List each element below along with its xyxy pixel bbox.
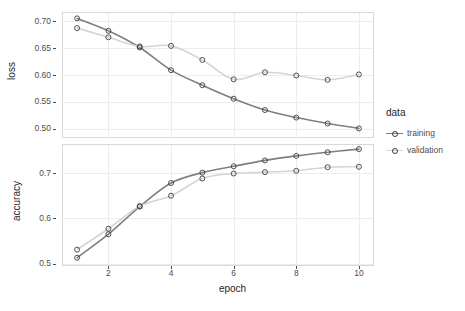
y-axis-title-accuracy: accuracy — [12, 171, 22, 231]
panel-loss — [62, 12, 374, 138]
legend-item-training[interactable]: training — [386, 125, 465, 142]
x-tick-label: 10 — [347, 269, 371, 278]
y-tick-mark — [53, 173, 56, 174]
legend-item-validation[interactable]: validation — [386, 142, 465, 159]
legend-items: trainingvalidation — [386, 125, 465, 159]
y-tick-mark — [53, 102, 56, 103]
x-tick-label: 4 — [159, 269, 183, 278]
x-tick-mark — [234, 266, 235, 269]
y-tick-label: 0.7 — [39, 169, 51, 178]
chart-root: 0.500.550.600.650.70 loss 0.50.60.7 accu… — [0, 0, 465, 311]
series-layer — [63, 145, 373, 265]
x-tick-label: 6 — [222, 269, 246, 278]
legend: data trainingvalidation — [386, 108, 465, 159]
panel-accuracy — [62, 144, 374, 266]
legend-key-icon — [386, 142, 403, 159]
y-tick-mark — [53, 48, 56, 49]
y-tick-label: 0.50 — [34, 124, 51, 133]
series-line-training — [77, 149, 359, 258]
legend-item-label: validation — [407, 146, 443, 155]
y-tick-mark — [53, 129, 56, 130]
x-tick-mark — [359, 266, 360, 269]
legend-item-label: training — [407, 129, 435, 138]
series-line-validation — [77, 167, 359, 250]
y-tick-label: 0.70 — [34, 17, 51, 26]
y-tick-mark — [53, 264, 56, 265]
x-tick-label: 2 — [96, 269, 120, 278]
y-tick-mark — [53, 75, 56, 76]
panel-loss-plot-area — [63, 13, 373, 137]
y-tick-label: 0.6 — [39, 214, 51, 223]
y-axis-ticks-loss: 0.500.550.600.650.70 — [22, 12, 56, 138]
y-tick-label: 0.55 — [34, 97, 51, 106]
x-tick-mark — [108, 266, 109, 269]
x-tick-mark — [171, 266, 172, 269]
y-tick-mark — [53, 218, 56, 219]
x-tick-label: 8 — [284, 269, 308, 278]
y-axis-title-loss: loss — [7, 41, 17, 101]
y-tick-label: 0.5 — [39, 259, 51, 268]
series-line-training — [77, 18, 359, 128]
panel-accuracy-plot-area — [63, 145, 373, 265]
y-tick-mark — [53, 21, 56, 22]
legend-key-icon — [386, 125, 403, 142]
y-axis-ticks-accuracy: 0.50.60.7 — [22, 144, 56, 266]
y-tick-label: 0.60 — [34, 71, 51, 80]
legend-title: data — [386, 108, 465, 118]
series-layer — [63, 13, 373, 137]
x-axis-title: epoch — [0, 284, 465, 294]
y-tick-label: 0.65 — [34, 44, 51, 53]
x-tick-mark — [296, 266, 297, 269]
